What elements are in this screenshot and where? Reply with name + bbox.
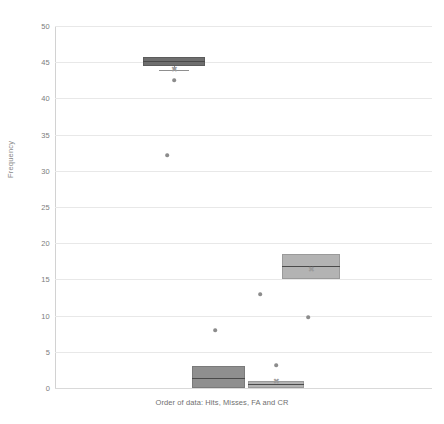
median-hits <box>143 61 205 62</box>
y-tick-label: 5 <box>4 347 50 356</box>
y-tick-label: 10 <box>4 311 50 320</box>
median-fa <box>192 378 245 379</box>
outlier-point <box>213 328 217 332</box>
outlier-point <box>172 78 176 82</box>
y-tick-label: 50 <box>4 22 50 31</box>
y-tick-label: 30 <box>4 166 50 175</box>
y-axis-tick-labels: 50 45 40 35 30 25 20 15 10 5 0 <box>0 26 50 388</box>
gridline-0 <box>55 388 432 389</box>
y-tick-label: 40 <box>4 94 50 103</box>
gridline-45 <box>55 62 432 63</box>
gridline-25 <box>55 207 432 208</box>
outlier-point <box>258 292 262 296</box>
box-fa <box>192 366 245 388</box>
y-tick-label: 25 <box>4 203 50 212</box>
gridline-40 <box>55 98 432 99</box>
outlier-point <box>274 363 278 367</box>
y-tick-label: 35 <box>4 130 50 139</box>
y-tick-label: 20 <box>4 239 50 248</box>
y-tick-label: 45 <box>4 58 50 67</box>
y-tick-label: 0 <box>4 384 50 393</box>
mean-marker-cr: ✖ <box>273 378 280 386</box>
gridline-15 <box>55 279 432 280</box>
x-axis-title: Order of data: Hits, Misses, FA and CR <box>0 398 444 407</box>
gridline-30 <box>55 171 432 172</box>
mean-marker-right-group: ✖ <box>308 266 315 274</box>
mean-marker-hits: ✖ <box>171 66 178 74</box>
plot-area: ✖ ✖ ✖ <box>55 26 432 388</box>
gridline-50 <box>55 26 432 27</box>
gridline-10 <box>55 316 432 317</box>
outlier-point <box>165 153 169 157</box>
y-tick-label: 15 <box>4 275 50 284</box>
gridline-20 <box>55 243 432 244</box>
gridline-35 <box>55 135 432 136</box>
gridline-5 <box>55 352 432 353</box>
boxplot-chart: Frequency 50 45 40 35 30 25 20 15 10 5 0… <box>0 0 444 424</box>
outlier-point <box>306 315 310 319</box>
